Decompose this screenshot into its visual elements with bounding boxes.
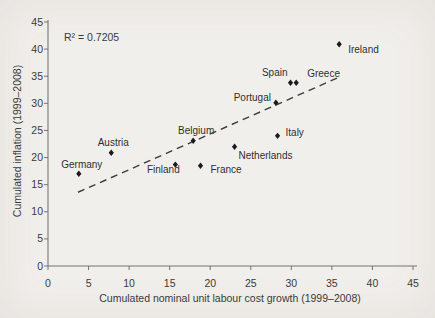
data-point-label-spain: Spain — [262, 67, 288, 78]
y-tick-label: 30 — [31, 97, 43, 109]
data-point-france — [198, 162, 203, 168]
data-point-greece — [294, 80, 299, 86]
data-point-label-greece: Greece — [307, 68, 340, 79]
chart-canvas: 051015202530354045051015202530354045Cumu… — [0, 0, 435, 318]
data-point-label-germany: Germany — [61, 159, 102, 170]
x-tick-label: 5 — [86, 277, 92, 289]
y-tick-label: 20 — [31, 151, 43, 163]
x-tick-label: 25 — [245, 277, 257, 289]
x-tick-label: 40 — [367, 277, 379, 289]
data-point-italy — [275, 133, 280, 139]
x-axis-title: Cumulated nominal unit labour cost growt… — [99, 292, 361, 304]
data-point-ireland — [337, 41, 342, 47]
data-point-label-ireland: Ireland — [348, 44, 379, 55]
data-point-label-netherlands: Netherlands — [239, 150, 293, 161]
data-point-germany — [76, 171, 81, 177]
data-point-portugal — [273, 100, 278, 106]
data-point-label-france: France — [210, 164, 242, 175]
y-tick-label: 0 — [37, 260, 43, 272]
data-point-label-finland: Finland — [147, 164, 180, 175]
data-point-spain — [288, 80, 293, 86]
data-point-label-belgium: Belgium — [178, 125, 214, 136]
scatter-figure: 051015202530354045051015202530354045Cumu… — [0, 0, 435, 318]
y-tick-label: 15 — [31, 178, 43, 190]
y-tick-label: 25 — [31, 124, 43, 136]
x-tick-label: 0 — [45, 277, 51, 289]
data-point-label-italy: Italy — [286, 127, 304, 138]
y-tick-label: 10 — [31, 205, 43, 217]
y-axis-title: Cumulated inflation (1999–2008) — [11, 65, 23, 217]
y-tick-label: 5 — [37, 232, 43, 244]
x-tick-label: 15 — [164, 277, 176, 289]
x-tick-label: 10 — [123, 277, 135, 289]
x-tick-label: 20 — [204, 277, 216, 289]
data-point-label-portugal: Portugal — [234, 92, 271, 103]
x-tick-label: 35 — [326, 277, 338, 289]
x-tick-label: 30 — [285, 277, 297, 289]
data-point-austria — [109, 149, 114, 155]
data-point-netherlands — [232, 144, 237, 150]
x-tick-label: 45 — [407, 277, 419, 289]
r-squared-annotation: R² = 0.7205 — [64, 31, 119, 43]
y-tick-label: 40 — [31, 43, 43, 55]
y-tick-label: 35 — [31, 70, 43, 82]
y-tick-label: 45 — [31, 16, 43, 28]
data-point-label-austria: Austria — [98, 137, 130, 148]
